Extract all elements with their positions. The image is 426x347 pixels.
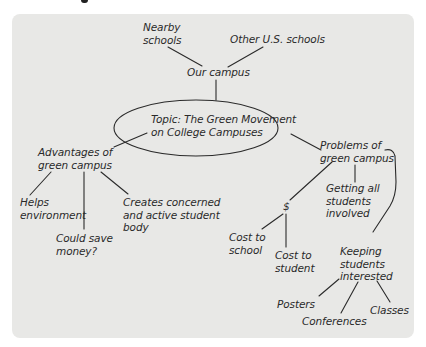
edge-keep-conferences — [341, 282, 358, 313]
node-creates-concerned: Creates concerned and active student bod… — [123, 196, 220, 234]
edge-dollar-school — [262, 214, 283, 229]
node-could-save-money: Could save money? — [56, 232, 113, 257]
node-conferences: Conferences — [302, 315, 367, 328]
node-dollar: $ — [283, 200, 290, 213]
node-getting-all-students: Getting all students involved — [326, 182, 380, 220]
edge-keep-posters — [319, 279, 339, 296]
edge-our-campus-nearby — [168, 47, 202, 66]
connector-lines — [0, 0, 426, 347]
node-cost-to-school: Cost to school — [229, 231, 266, 256]
edge-adv-helps — [30, 172, 51, 195]
edge-our-campus-other — [228, 47, 263, 67]
node-keeping-students: Keeping students interested — [340, 245, 393, 283]
node-other-us-schools: Other U.S. schools — [230, 33, 325, 46]
node-helps-environment: Helps environment — [20, 196, 86, 221]
edge-adv-creates — [101, 172, 128, 194]
node-problems: Problems of green campus — [320, 139, 394, 164]
node-our-campus: Our campus — [187, 66, 250, 79]
node-posters: Posters — [277, 298, 315, 311]
node-nearby-schools: Nearby schools — [143, 21, 181, 46]
node-cost-to-student: Cost to student — [275, 249, 314, 274]
node-classes: Classes — [370, 304, 409, 317]
node-topic: Topic: The Green Movement on College Cam… — [151, 113, 296, 138]
node-advantages: Advantages of green campus — [38, 146, 112, 171]
edge-keep-classes — [377, 281, 390, 302]
